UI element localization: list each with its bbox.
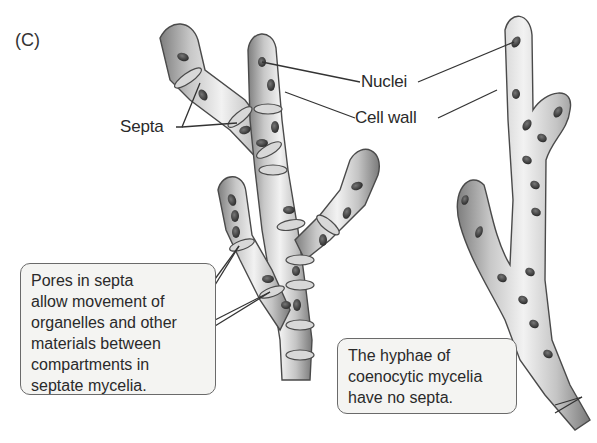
callout-line: coenocytic mycelia <box>348 366 506 387</box>
label-nuclei: Nuclei <box>361 72 407 92</box>
callout-line: allow movement of <box>31 291 205 312</box>
callout-line: septate mycelia. <box>31 375 205 396</box>
callout-septate-pores: Pores in septa allow movement of organel… <box>20 263 216 395</box>
callout-line: The hyphae of <box>348 345 506 366</box>
callout-line: Pores in septa <box>31 270 205 291</box>
callout-coenocytic: The hyphae of coenocytic mycelia have no… <box>337 338 517 414</box>
label-septa: Septa <box>120 117 163 137</box>
callout-line: compartments in <box>31 354 205 375</box>
callout-line: have no septa. <box>348 387 506 408</box>
panel-label: (C) <box>15 30 40 51</box>
callout-line: organelles and other <box>31 312 205 333</box>
hyphae-diagram: (C) Nuclei Cell wall Septa Pores in sept… <box>0 0 597 443</box>
callout-line: materials between <box>31 333 205 354</box>
label-cell-wall: Cell wall <box>355 108 417 128</box>
